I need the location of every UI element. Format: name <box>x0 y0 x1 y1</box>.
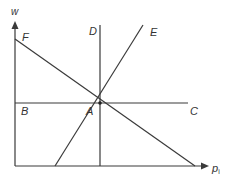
label-e: E <box>150 26 158 38</box>
y-axis-label: w <box>11 6 19 17</box>
label-d: D <box>89 25 97 37</box>
x-axis-arrow-icon <box>201 163 209 170</box>
diagram-canvas: w pi F D E B A C <box>0 0 236 185</box>
x-axis-label: pi <box>211 162 220 175</box>
line-e <box>55 25 143 166</box>
label-f: F <box>22 31 30 43</box>
y-axis-arrow-icon <box>12 21 19 29</box>
label-b: B <box>21 105 28 117</box>
intersection-point-a <box>98 101 102 105</box>
label-c: C <box>190 105 198 117</box>
label-a: A <box>85 105 93 117</box>
